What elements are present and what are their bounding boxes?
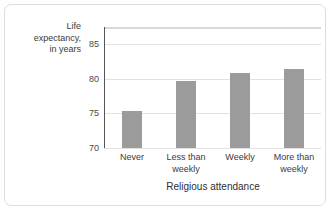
x-tick-label-line: Never <box>105 152 159 164</box>
y-tick-label: 85 <box>89 39 99 49</box>
y-axis-title-line-1: Life <box>11 21 81 33</box>
bar[interactable] <box>176 81 196 148</box>
bar-slot <box>159 27 213 148</box>
x-axis-title: Religious attendance <box>105 181 321 192</box>
bar[interactable] <box>284 69 304 148</box>
y-axis-title-line-3: in years <box>11 44 81 56</box>
x-tick-label-line: weekly <box>159 164 213 176</box>
y-tick-label: 75 <box>89 108 99 118</box>
bar-slot <box>267 27 321 148</box>
x-tick-label-line: Weekly <box>213 152 267 164</box>
plot-area: 70758085 <box>104 27 321 148</box>
bar-series <box>105 27 321 148</box>
bar[interactable] <box>122 111 142 148</box>
bar-slot <box>213 27 267 148</box>
chart-card: Life expectancy, in years 70758085 Never… <box>4 4 326 206</box>
bar-slot <box>105 27 159 148</box>
x-tick-label-line: Less than <box>159 152 213 164</box>
y-axis-title-line-2: expectancy, <box>11 33 81 45</box>
bar[interactable] <box>230 73 250 148</box>
x-tick-label: More thanweekly <box>267 152 321 175</box>
y-tick-label: 70 <box>89 143 99 153</box>
x-tick-label: Never <box>105 152 159 164</box>
y-tick-label: 80 <box>89 74 99 84</box>
x-tick-labels: NeverLess thanweeklyWeeklyMore thanweekl… <box>105 152 321 178</box>
x-tick-label: Less thanweekly <box>159 152 213 175</box>
x-tick-label: Weekly <box>213 152 267 164</box>
x-tick-label-line: weekly <box>267 164 321 176</box>
x-tick-label-line: More than <box>267 152 321 164</box>
gridline <box>104 148 321 149</box>
y-axis-title: Life expectancy, in years <box>11 21 81 56</box>
